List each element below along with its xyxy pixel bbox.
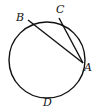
diagram-canvas: B C A D (0, 0, 95, 107)
label-d: D (42, 96, 52, 107)
label-c: C (56, 3, 65, 16)
circle-diagram: B C A D (0, 0, 95, 107)
label-b: B (15, 11, 24, 24)
label-a: A (83, 61, 92, 74)
circle (9, 22, 85, 98)
chord-ba (28, 20, 83, 63)
